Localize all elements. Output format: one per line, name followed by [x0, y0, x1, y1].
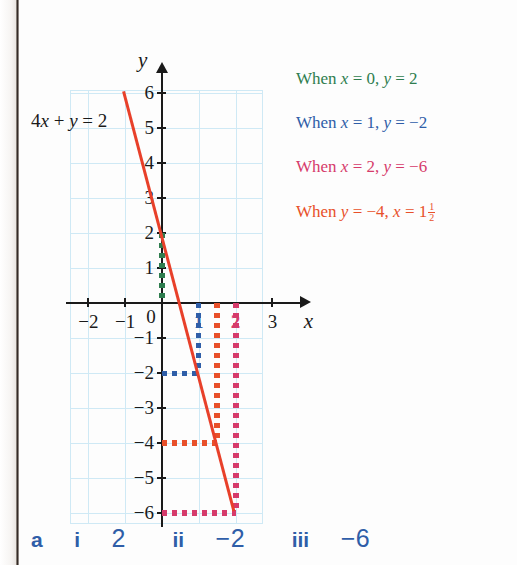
grid-border: [70, 90, 263, 91]
y-tick-label: 2: [120, 223, 154, 242]
x-axis-label: x: [304, 309, 313, 334]
grid-line-horizontal: [70, 233, 263, 234]
answer-numeral-i: i: [74, 528, 80, 551]
y-tick-label: −5: [120, 468, 154, 487]
grid-line-horizontal: [70, 198, 263, 199]
legend-item-ym4: When y = −4, x = 112: [296, 202, 517, 223]
grid-line-horizontal: [70, 93, 263, 94]
y-axis-tick: [157, 162, 166, 164]
answer-numeral-iii: iii: [292, 528, 310, 551]
x-axis-tick: [124, 298, 126, 307]
guide-orange-vertical-x1p5: [214, 303, 220, 443]
answer-numeral-ii: ii: [172, 528, 184, 551]
answer-value-ii: −2: [216, 524, 246, 552]
y-axis-tick: [157, 477, 166, 479]
grid-border: [262, 90, 263, 524]
x-tick-label: 3: [261, 312, 283, 331]
y-tick-label: −6: [120, 503, 154, 522]
grid-border: [70, 90, 71, 524]
legend-item-x1: When x = 1, y = −2: [296, 114, 517, 131]
guide-blue-horizontal-ym2: [162, 371, 199, 376]
grid-line-horizontal: [70, 163, 263, 164]
guide-pink-horizontal-ym6: [162, 510, 236, 516]
y-axis-tick: [157, 127, 166, 129]
x-axis-tick: [271, 298, 273, 307]
guide-pink-vertical-x2: [233, 303, 239, 513]
x-axis-tick: [87, 298, 89, 307]
y-axis-label: y: [138, 48, 147, 73]
guide-blue-vertical-x1: [196, 303, 201, 373]
x-axis: [66, 302, 302, 304]
page-background: 654321−1−2−3−4−5−6−2−10123 x y 4x + y = …: [0, 0, 517, 565]
grid-line-horizontal: [70, 268, 263, 269]
x-tick-label: −2: [77, 312, 99, 331]
y-tick-label: 4: [120, 153, 154, 172]
y-axis-tick: [157, 407, 166, 409]
legend-item-x2: When x = 2, y = −6: [296, 158, 517, 175]
y-tick-label: −3: [120, 398, 154, 417]
answer-row: a i 2 ii −2 iii −6: [31, 524, 501, 553]
y-tick-label: 1: [120, 258, 154, 277]
y-axis-tick: [157, 337, 166, 339]
y-tick-label: −4: [120, 433, 154, 452]
legend-item-x0: When x = 0, y = 2: [296, 70, 517, 87]
y-axis-arrow-icon: [156, 62, 168, 73]
legend: When x = 0, y = 2 When x = 1, y = −2 Whe…: [296, 70, 517, 250]
x-tick-label: 0: [140, 307, 162, 326]
answer-value-i: 2: [112, 524, 126, 552]
y-tick-label: 5: [120, 118, 154, 137]
answer-part-label: a: [31, 528, 43, 551]
equation-label: 4x + y = 2: [31, 110, 107, 132]
x-tick-label: −1: [114, 312, 136, 331]
x-axis-arrow-icon: [300, 296, 311, 308]
y-axis-tick: [157, 92, 166, 94]
guide-orange-horizontal-ym4: [162, 440, 217, 446]
y-axis-tick: [157, 197, 166, 199]
answer-value-iii: −6: [341, 524, 371, 552]
y-tick-label: −2: [120, 363, 154, 382]
